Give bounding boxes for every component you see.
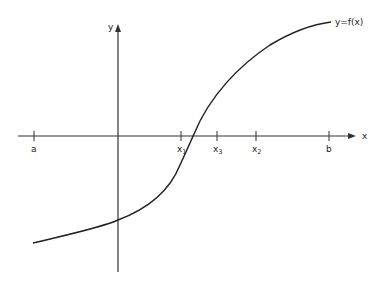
tick-x3: x3: [213, 131, 222, 156]
curve-label: y=f(x): [335, 17, 363, 27]
tick-label-a: a: [31, 144, 37, 154]
tick-label-x2: x2: [252, 144, 261, 156]
tick-x2: x2: [252, 131, 261, 156]
y-axis-label: y: [108, 22, 114, 32]
function-graph: x y a x1 x3 x2 b y=f(x): [0, 0, 379, 288]
function-curve: [33, 22, 331, 243]
tick-a: a: [31, 131, 37, 154]
tick-b: b: [326, 131, 332, 154]
x-axis-label: x: [362, 131, 368, 141]
y-axis-arrow: [115, 24, 121, 32]
tick-label-b: b: [326, 144, 332, 154]
x-axis-arrow: [348, 133, 356, 139]
tick-label-x3: x3: [213, 144, 222, 156]
